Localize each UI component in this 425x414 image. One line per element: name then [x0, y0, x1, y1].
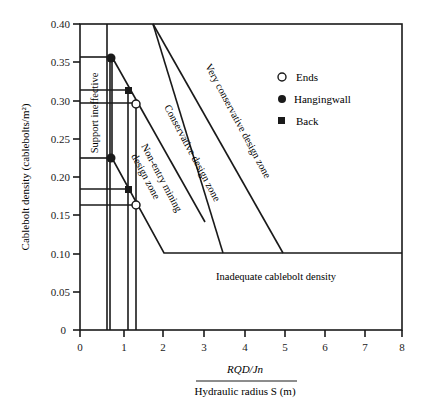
legend-hangingwall-icon — [278, 95, 286, 103]
y-tick-0: 0 — [61, 324, 67, 336]
x-axis-ticks — [80, 330, 402, 337]
y-tick-0.35: 0.35 — [51, 56, 71, 68]
x-tick-3: 3 — [201, 341, 207, 353]
ends-marker — [132, 100, 140, 108]
y-tick-0.30: 0.30 — [51, 95, 71, 107]
x-tick-6: 6 — [322, 341, 328, 353]
very-conservative-boundary — [153, 24, 283, 253]
x-tick-8: 8 — [399, 341, 405, 353]
inadequate-label: Inadequate cablebolt density — [216, 271, 337, 282]
ends-marker — [132, 201, 140, 209]
y-axis-title: Cablebolt density (cablebolts/m²) — [19, 103, 32, 250]
y-tick-0.20: 0.20 — [51, 171, 71, 183]
y-axis-ticks — [73, 24, 80, 330]
y-tick-labels: 0.40 0.35 0.30 0.25 0.20 0.15 0.10 0.05 … — [51, 18, 71, 336]
very-conservative-label: Very conservative design zone — [203, 62, 273, 180]
legend-back-label: Back — [296, 115, 319, 127]
x-axis-denominator: Hydraulic radius S (m) — [194, 385, 295, 398]
x-tick-4: 4 — [242, 341, 248, 353]
cablebolt-design-chart: 0.40 0.35 0.30 0.25 0.20 0.15 0.10 0.05 … — [0, 0, 425, 414]
y-tick-0.25: 0.25 — [51, 133, 71, 145]
y-tick-0.40: 0.40 — [51, 18, 71, 30]
legend-ends-label: Ends — [296, 71, 318, 83]
x-tick-7: 7 — [362, 341, 368, 353]
y-tick-0.15: 0.15 — [51, 209, 71, 221]
x-axis-numerator: RQD/Jn — [226, 363, 264, 375]
y-tick-0.10: 0.10 — [51, 248, 71, 260]
back-marker — [125, 186, 132, 193]
legend: Ends Hangingwall Back — [278, 71, 351, 127]
legend-back-icon — [278, 117, 285, 124]
x-tick-0: 0 — [77, 341, 83, 353]
x-tick-labels: 0 1 2 3 4 5 6 7 8 — [77, 341, 405, 353]
y-tick-0.05: 0.05 — [51, 286, 71, 298]
legend-ends-icon — [278, 73, 286, 81]
x-tick-2: 2 — [160, 341, 166, 353]
x-tick-5: 5 — [282, 341, 288, 353]
back-marker — [125, 87, 132, 94]
hangingwall-marker — [107, 54, 116, 63]
legend-hangingwall-label: Hangingwall — [294, 93, 351, 105]
support-ineffective-label: Support ineffective — [89, 72, 100, 153]
x-tick-1: 1 — [121, 341, 127, 353]
hangingwall-marker — [107, 154, 116, 163]
